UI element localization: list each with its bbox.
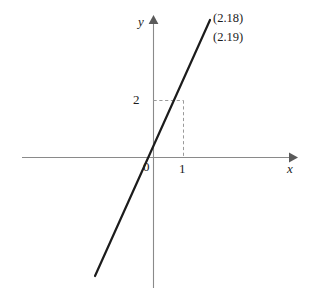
y-axis-arrowhead: [149, 15, 159, 24]
equation-reference-2: (2.19): [213, 31, 243, 44]
x-tick-label-1: 1: [179, 162, 186, 175]
y-tick-label-2: 2: [133, 93, 140, 106]
equation-reference-1: (2.18): [213, 12, 243, 25]
graph-plot-area: [0, 0, 313, 299]
line-graph-curve: [95, 20, 210, 276]
y-axis-label: y: [138, 15, 144, 28]
x-axis-label: x: [287, 162, 293, 175]
origin-tick-label: 0: [143, 160, 150, 173]
figure-canvas: y x 0 1 2 (2.18) (2.19): [0, 0, 313, 299]
